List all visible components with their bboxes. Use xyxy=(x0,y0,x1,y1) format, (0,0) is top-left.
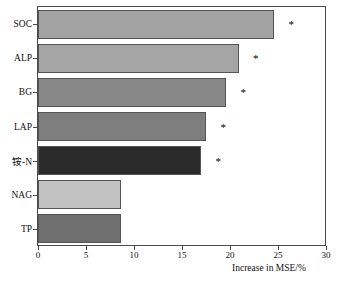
bar-BG xyxy=(38,78,226,107)
category-tick xyxy=(33,195,37,196)
category-label-ALP: ALP xyxy=(0,53,32,63)
x-tick-label: 20 xyxy=(226,251,235,260)
category-label-铵-N: 铵-N xyxy=(0,154,32,168)
significance-star-铵-N: * xyxy=(216,155,222,166)
bar-row xyxy=(38,144,326,178)
significance-star-SOC: * xyxy=(289,19,295,30)
category-label-TP: TP xyxy=(0,224,32,234)
bar-row xyxy=(38,212,326,246)
bar-row xyxy=(38,75,326,109)
x-tick-label: 10 xyxy=(130,251,139,260)
x-tick-label: 30 xyxy=(322,251,331,260)
bar-铵-N xyxy=(38,146,201,175)
bar-SOC xyxy=(38,10,274,39)
category-label-NAG: NAG xyxy=(0,190,32,200)
category-label-SOC: SOC xyxy=(0,19,32,29)
bar-row xyxy=(38,178,326,212)
category-axis: SOCALPBGLAP铵-NNAGTP xyxy=(0,7,34,246)
significance-star-BG: * xyxy=(241,87,247,98)
bar-NAG xyxy=(38,180,121,209)
x-tick-label: 0 xyxy=(36,251,41,260)
bar-row xyxy=(38,109,326,143)
category-tick xyxy=(33,127,37,128)
bar-row xyxy=(38,41,326,75)
x-axis-title: Increase in MSE/% xyxy=(232,264,306,274)
bar-TP xyxy=(38,214,121,243)
category-tick xyxy=(33,92,37,93)
x-tick-label: 5 xyxy=(84,251,89,260)
category-tick xyxy=(33,161,37,162)
category-label-LAP: LAP xyxy=(0,122,32,132)
category-tick xyxy=(33,229,37,230)
category-tick xyxy=(33,24,37,25)
x-tick-label: 15 xyxy=(178,251,187,260)
category-label-BG: BG xyxy=(0,87,32,97)
bar-ALP xyxy=(38,44,239,73)
bar-row xyxy=(38,7,326,41)
significance-star-ALP: * xyxy=(253,53,259,64)
bar-LAP xyxy=(38,112,206,141)
bar-chart: SOCALPBGLAP铵-NNAGTP ***** 051015202530 I… xyxy=(0,0,354,285)
bars-layer xyxy=(38,7,326,246)
category-tick xyxy=(33,58,37,59)
x-tick-label: 25 xyxy=(274,251,283,260)
significance-star-LAP: * xyxy=(220,121,226,132)
